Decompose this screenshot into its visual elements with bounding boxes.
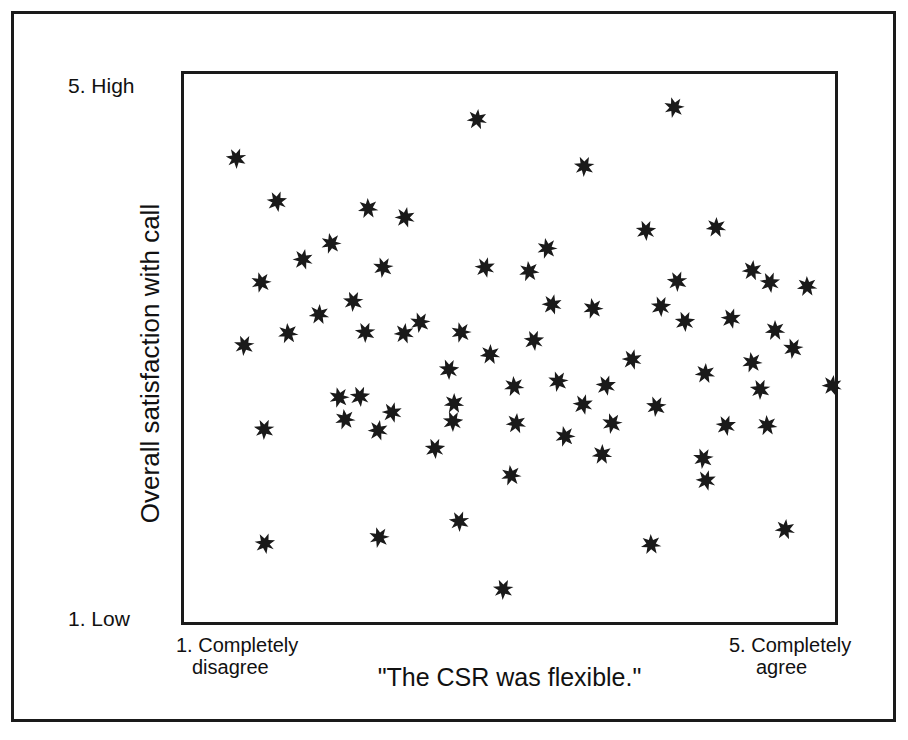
y-axis-max-label: 5. High [68,74,135,98]
scatter-point [307,302,330,325]
x-axis-max-label-line1: 5. Completely [729,634,851,656]
scatter-point [552,423,578,449]
scatter-point [276,321,300,345]
scatter-point [642,391,671,420]
scatter-point [251,528,279,556]
scatter-point [591,442,614,465]
scatter-point [392,203,418,229]
scatter-point [499,463,524,488]
scatter-point [249,414,278,443]
scatter-point [693,361,717,385]
scatter-point [745,374,775,404]
scatter-point [504,411,528,435]
scatter-point [580,296,605,321]
scatter-point [434,354,464,384]
scatter-point [569,390,596,417]
scatter-point [662,266,692,296]
scatter-point [333,407,358,432]
scatter-point [230,331,259,360]
scatter-point [391,320,416,345]
scatter-point [247,269,274,296]
scatter-point [290,246,316,272]
scatter-point [671,306,700,335]
scatter-point [478,342,501,365]
scatter-point [471,253,498,280]
scatter-point [646,291,676,321]
scatter-point [465,107,490,132]
scatter-point [705,216,728,239]
y-axis-min-label: 1. Low [68,607,130,631]
scatter-point [796,275,818,297]
scatter-point [517,259,541,283]
scatter-point [544,367,572,395]
scatter-point [339,287,368,316]
scatter-point [592,371,620,399]
scatter-point [221,143,251,173]
x-axis-title: "The CSR was flexible." [181,663,838,692]
scatter-point [420,433,449,462]
scatter-point [263,187,291,215]
scatter-plot-area [184,74,835,622]
scatter-point [598,410,625,437]
scatter-point [318,230,344,256]
scatter-point [488,574,517,603]
plot-frame [181,71,838,625]
scatter-point [693,466,720,493]
scatter-point [631,215,660,244]
scatter-point [772,517,797,542]
scatter-point [640,533,663,556]
scatter-point [365,417,391,443]
scatter-point [368,253,396,281]
scatter-point [660,93,687,120]
scatter-point [739,349,764,374]
y-axis-title: Overall satisfaction with call [135,154,166,574]
x-axis-min-label-line1: 1. Completely [176,634,298,656]
scatter-point [444,506,474,536]
scatter-point [717,304,745,332]
scatter-point [618,346,645,373]
scatter-point [357,197,380,220]
scatter-point [712,411,740,439]
scatter-point [764,319,786,341]
figure-canvas: 5. High 1. Low Overall satisfaction with… [0,0,908,740]
scatter-point [350,317,380,347]
scatter-point [366,523,393,550]
scatter-point [819,372,844,397]
scatter-point [503,375,526,398]
scatter-point [570,151,599,180]
scatter-point [534,235,560,261]
scatter-point [519,325,548,354]
scatter-point [755,413,778,436]
scatter-point [447,318,474,345]
scatter-point [539,291,565,317]
